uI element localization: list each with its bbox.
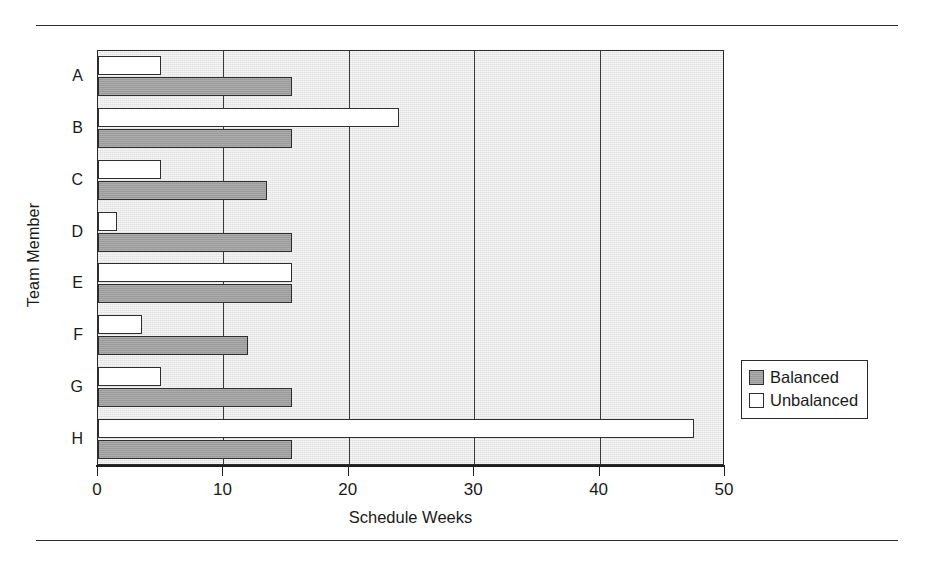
y-category-label-C: C: [43, 172, 83, 188]
x-axis-title: Schedule Weeks: [97, 508, 724, 527]
bar-group-A: [98, 54, 723, 98]
y-category-label-G: G: [43, 379, 83, 395]
bar-group-D: [98, 210, 723, 254]
bottom-divider-rule: [36, 540, 898, 541]
x-tick-label-30: 30: [443, 480, 503, 500]
x-tick-10: [222, 465, 223, 476]
x-tick-label-0: 0: [67, 480, 127, 500]
x-tick-40: [599, 465, 600, 476]
bar-balanced-G: [98, 388, 292, 407]
bar-balanced-H: [98, 440, 292, 459]
x-tick-30: [473, 465, 474, 476]
bar-unbalanced-G: [98, 367, 161, 386]
bar-balanced-A: [98, 77, 292, 96]
plot-region: 01020304050 ABCDEFGH Schedule Weeks: [97, 50, 724, 465]
bar-group-H: [98, 417, 723, 461]
legend-swatch-balanced-icon: [749, 370, 764, 385]
bar-chart-figure: Team Member 01020304050 ABCDEFGH Schedul…: [0, 32, 934, 532]
bar-balanced-B: [98, 129, 292, 148]
x-tick-label-10: 10: [192, 480, 252, 500]
x-tick-label-50: 50: [694, 480, 754, 500]
bar-balanced-C: [98, 181, 267, 200]
y-category-label-F: F: [43, 327, 83, 343]
bar-balanced-D: [98, 233, 292, 252]
bar-balanced-E: [98, 284, 292, 303]
top-divider-rule: [36, 25, 898, 26]
legend-item-unbalanced: Unbalanced: [749, 389, 858, 412]
bar-group-F: [98, 313, 723, 357]
legend-swatch-unbalanced-icon: [749, 393, 764, 408]
x-tick-label-40: 40: [569, 480, 629, 500]
bar-unbalanced-H: [98, 419, 694, 438]
bar-balanced-F: [98, 336, 248, 355]
bar-unbalanced-F: [98, 315, 142, 334]
bar-group-G: [98, 365, 723, 409]
bar-unbalanced-C: [98, 160, 161, 179]
x-tick-50: [724, 465, 725, 476]
y-category-label-D: D: [43, 224, 83, 240]
y-category-label-H: H: [43, 431, 83, 447]
bar-unbalanced-E: [98, 263, 292, 282]
x-tick-label-20: 20: [318, 480, 378, 500]
legend-label-balanced: Balanced: [770, 368, 839, 387]
chart-legend: Balanced Unbalanced: [741, 360, 868, 419]
bar-unbalanced-B: [98, 108, 399, 127]
y-category-label-A: A: [43, 68, 83, 84]
legend-item-balanced: Balanced: [749, 366, 858, 389]
x-tick-20: [348, 465, 349, 476]
y-category-label-B: B: [43, 120, 83, 136]
x-tick-0: [97, 465, 98, 476]
y-category-label-E: E: [43, 275, 83, 291]
plot-area: [97, 50, 724, 465]
bar-group-C: [98, 158, 723, 202]
y-axis-title: Team Member: [25, 155, 43, 355]
bar-group-E: [98, 261, 723, 305]
bar-unbalanced-D: [98, 212, 117, 231]
x-axis-line: [96, 465, 725, 467]
legend-label-unbalanced: Unbalanced: [770, 391, 858, 410]
bar-groups: [98, 51, 723, 464]
bar-unbalanced-A: [98, 56, 161, 75]
bar-group-B: [98, 106, 723, 150]
